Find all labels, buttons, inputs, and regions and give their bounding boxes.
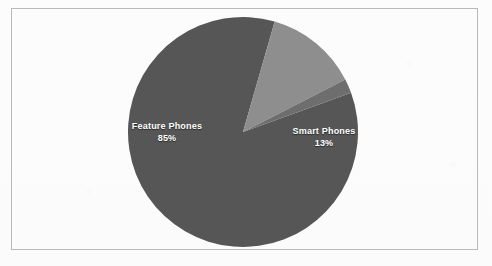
- pie-chart-graphic: [0, 0, 492, 266]
- pie-chart-figure: Feature Phones 85% Smart Phones 13%: [0, 0, 492, 266]
